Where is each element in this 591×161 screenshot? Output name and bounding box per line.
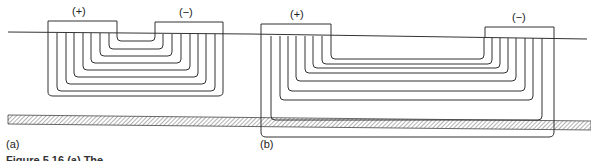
panel-label-a: (a) — [6, 138, 19, 150]
figure-caption: Figure 5.16 (a) The... — [6, 154, 112, 161]
surface-line-a — [8, 32, 250, 34]
electrode-minus-a — [155, 22, 223, 34]
surface-line-b — [250, 34, 587, 39]
panel-a — [8, 21, 250, 96]
label-minus-a: (−) — [179, 6, 193, 18]
electrode-plus-a — [48, 21, 117, 33]
electrode-minus-b — [485, 27, 554, 38]
panel-label-b: (b) — [260, 138, 273, 150]
figure-canvas: (+) (−) (+) (−) (a) (b) Figure 5.16 (a) … — [0, 0, 591, 161]
label-plus-b: (+) — [290, 8, 304, 20]
label-plus-a: (+) — [72, 5, 86, 17]
panel-b — [250, 24, 587, 137]
hatched-layer — [8, 115, 591, 130]
label-minus-b: (−) — [512, 11, 526, 23]
